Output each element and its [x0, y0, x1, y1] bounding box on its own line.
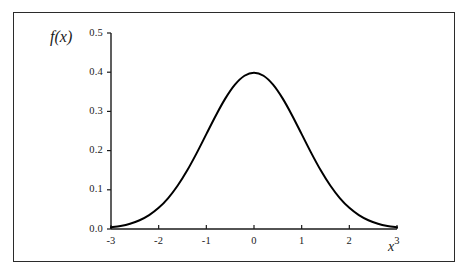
y-tick-label: 0.2 [69, 144, 103, 155]
y-tick-label: 0.0 [69, 223, 103, 234]
y-tick-label: 0.1 [69, 183, 103, 194]
figure-root: 0.00.10.20.30.40.5 -3-2-10123 f(x) x [0, 0, 471, 276]
x-tick-label: 0 [239, 235, 269, 246]
x-tick-label: -3 [96, 235, 126, 246]
y-tick-label: 0.5 [69, 27, 103, 38]
x-tick-label: -1 [191, 235, 221, 246]
x-axis-label: x [388, 239, 394, 255]
x-tick-label: 1 [287, 235, 317, 246]
plot-area: 0.00.10.20.30.40.5 -3-2-10123 f(x) x [0, 0, 471, 276]
x-tick-label: -2 [144, 235, 174, 246]
x-tick-label: 3 [382, 235, 412, 246]
data-series-line [111, 73, 397, 228]
y-tick-label: 0.4 [69, 66, 103, 77]
y-axis-label: f(x) [50, 28, 72, 46]
x-tick-label: 2 [334, 235, 364, 246]
y-tick-label: 0.3 [69, 105, 103, 116]
